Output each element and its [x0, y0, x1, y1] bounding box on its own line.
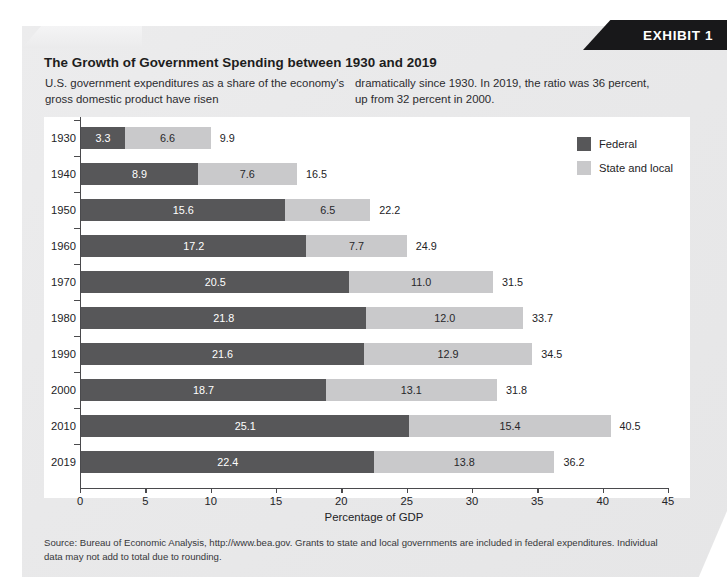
stacked-bar: 21.612.9: [81, 343, 532, 365]
exhibit-badge: EXHIBIT 1: [583, 20, 727, 50]
bar-total-label: 36.2: [563, 451, 584, 473]
bar-segment-state-local: 15.4: [409, 415, 610, 437]
x-axis-tick: [472, 488, 473, 493]
bar-total-label: 31.8: [506, 379, 527, 401]
chart-row: 198021.812.033.7: [44, 307, 690, 329]
stacked-bar: 20.511.0: [81, 271, 493, 293]
y-axis-tick: [74, 156, 80, 157]
y-axis-tick-label: 1960: [44, 235, 76, 257]
y-axis-tick: [74, 120, 80, 121]
chart-row: 200018.713.131.8: [44, 379, 690, 401]
legend-swatch-federal: [577, 137, 591, 151]
bar-segment-state-local: 6.5: [285, 199, 370, 221]
bar-total-label: 40.5: [620, 415, 641, 437]
legend-label-state-local: State and local: [599, 162, 673, 174]
y-axis-tick: [74, 300, 80, 301]
stacked-bar: 3.36.6: [81, 127, 210, 149]
y-axis-tick-label: 2019: [44, 451, 76, 473]
x-axis-tick: [211, 488, 212, 493]
legend-item-state-local: State and local: [577, 161, 673, 175]
intro-text: U.S. government expenditures as a share …: [45, 76, 665, 107]
y-axis-tick-label: 1980: [44, 307, 76, 329]
stacked-bar: 17.27.7: [81, 235, 406, 257]
chart-legend: Federal State and local: [577, 137, 673, 185]
x-axis-tick: [603, 488, 604, 493]
y-axis-tick-label: 1970: [44, 271, 76, 293]
y-axis-tick-label: 1930: [44, 127, 76, 149]
x-axis-tick-label: 35: [531, 495, 543, 507]
stacked-bar-chart: 19303.36.69.919408.97.616.5195015.66.522…: [44, 117, 690, 498]
bar-total-label: 33.7: [532, 307, 553, 329]
bar-total-label: 34.5: [541, 343, 562, 365]
bar-segment-federal: 21.6: [81, 343, 363, 365]
bar-segment-state-local: 7.7: [306, 235, 407, 257]
panel-bevel: [22, 26, 142, 48]
source-note: Source: Bureau of Economic Analysis, htt…: [44, 536, 674, 563]
bar-segment-state-local: 12.0: [366, 307, 523, 329]
x-axis-tick-label: 15: [270, 495, 282, 507]
chart-row: 195015.66.522.2: [44, 199, 690, 221]
bar-segment-federal: 8.9: [81, 163, 197, 185]
stacked-bar: 22.413.8: [81, 451, 554, 473]
x-axis-tick: [145, 488, 146, 493]
stacked-bar: 25.115.4: [81, 415, 610, 437]
x-axis-tick: [276, 488, 277, 493]
x-axis-tick: [668, 488, 669, 493]
y-axis-tick: [74, 372, 80, 373]
chart-row: 201922.413.836.2: [44, 451, 690, 473]
legend-label-federal: Federal: [599, 138, 637, 150]
intro-column-left: U.S. government expenditures as a share …: [45, 76, 345, 107]
bar-segment-federal: 15.6: [81, 199, 285, 221]
bar-segment-state-local: 11.0: [349, 271, 493, 293]
y-axis-tick: [74, 228, 80, 229]
bar-total-label: 9.9: [220, 127, 235, 149]
legend-swatch-state-local: [577, 161, 591, 175]
bar-segment-federal: 17.2: [81, 235, 306, 257]
page-title: The Growth of Government Spending betwee…: [44, 55, 437, 70]
chart-row: 196017.27.724.9: [44, 235, 690, 257]
bar-total-label: 24.9: [416, 235, 437, 257]
exhibit-figure: EXHIBIT 1 The Growth of Government Spend…: [0, 0, 727, 585]
y-axis-tick: [74, 264, 80, 265]
chart-row: 197020.511.031.5: [44, 271, 690, 293]
intro-column-right: dramatically since 1930. In 2019, the ra…: [355, 76, 655, 107]
bar-segment-state-local: 6.6: [125, 127, 211, 149]
x-axis-tick-label: 5: [142, 495, 148, 507]
y-axis-tick-label: 1950: [44, 199, 76, 221]
y-axis-tick-label: 1940: [44, 163, 76, 185]
y-axis-tick: [74, 336, 80, 337]
bar-segment-federal: 3.3: [81, 127, 124, 149]
stacked-bar: 18.713.1: [81, 379, 497, 401]
chart-row: 201025.115.440.5: [44, 415, 690, 437]
stacked-bar: 21.812.0: [81, 307, 523, 329]
stacked-bar: 15.66.5: [81, 199, 370, 221]
bar-segment-state-local: 12.9: [364, 343, 533, 365]
bar-segment-state-local: 13.1: [326, 379, 497, 401]
bar-total-label: 22.2: [379, 199, 400, 221]
bar-segment-federal: 20.5: [81, 271, 349, 293]
bar-segment-state-local: 7.6: [198, 163, 297, 185]
x-axis-tick-label: 0: [77, 495, 83, 507]
bar-total-label: 16.5: [306, 163, 327, 185]
x-axis-tick: [80, 488, 81, 493]
y-axis-tick: [74, 408, 80, 409]
y-axis-tick: [74, 192, 80, 193]
y-axis-tick-label: 2000: [44, 379, 76, 401]
x-axis-tick-label: 20: [335, 495, 347, 507]
x-axis-tick: [537, 488, 538, 493]
bar-segment-federal: 22.4: [81, 451, 374, 473]
y-axis-tick: [74, 444, 80, 445]
x-axis-tick-label: 40: [596, 495, 608, 507]
bar-segment-federal: 18.7: [81, 379, 325, 401]
chart-row: 199021.612.934.5: [44, 343, 690, 365]
y-axis-tick-label: 1990: [44, 343, 76, 365]
bar-segment-state-local: 13.8: [374, 451, 554, 473]
x-axis-title: Percentage of GDP: [80, 511, 668, 523]
x-axis-tick-label: 10: [204, 495, 216, 507]
bar-segment-federal: 21.8: [81, 307, 366, 329]
x-axis-tick-label: 30: [466, 495, 478, 507]
x-axis-tick-label: 25: [400, 495, 412, 507]
y-axis-tick-label: 2010: [44, 415, 76, 437]
bar-total-label: 31.5: [502, 271, 523, 293]
x-axis-tick: [341, 488, 342, 493]
